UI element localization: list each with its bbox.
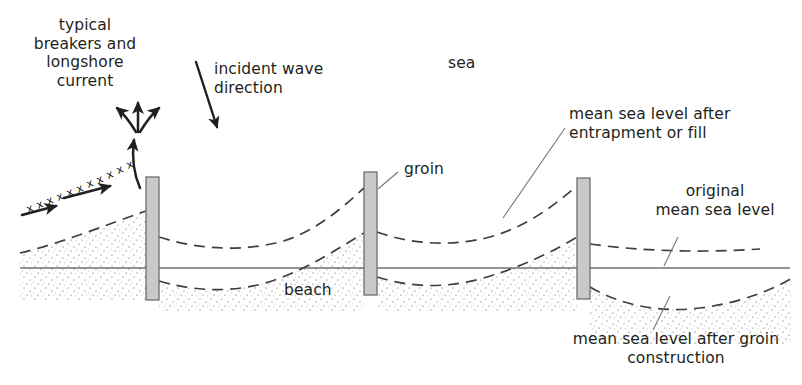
svg-text:x: x (54, 189, 65, 204)
label-incident-wave-direction: incident wave direction (214, 60, 394, 97)
svg-text:x: x (84, 176, 95, 191)
diagram-canvas: x x x x x x x x x x x (0, 0, 802, 385)
svg-text:x: x (94, 172, 105, 187)
breaker-fan-arrows (117, 103, 159, 132)
sand-cell-2-3 (377, 237, 577, 312)
label-original-mean-sea-level: original mean sea level (640, 182, 790, 219)
label-groin: groin (404, 160, 474, 179)
leader-msl-entrapment (503, 128, 565, 218)
groin-2 (364, 172, 377, 295)
label-typical-breakers: typical breakers and longshore current (22, 16, 148, 90)
label-beach: beach (284, 281, 364, 300)
groin-1 (146, 177, 159, 300)
leader-original-msl (664, 237, 678, 266)
label-msl-after-groin-construction: mean sea level after groin construction (556, 330, 796, 367)
svg-text:x: x (104, 167, 115, 182)
label-msl-after-entrapment: mean sea level after entrapment or fill (569, 105, 784, 142)
groin-3 (577, 178, 590, 299)
leader-groin (378, 172, 398, 189)
sand-cell-1-2 (159, 233, 364, 312)
breaker-line-marks: x x x x x x x x x x x (24, 157, 135, 216)
sand-cell-left (20, 211, 146, 300)
svg-text:x: x (114, 162, 125, 177)
longshore-current-curved-arrow (133, 140, 140, 188)
label-sea: sea (448, 54, 508, 73)
